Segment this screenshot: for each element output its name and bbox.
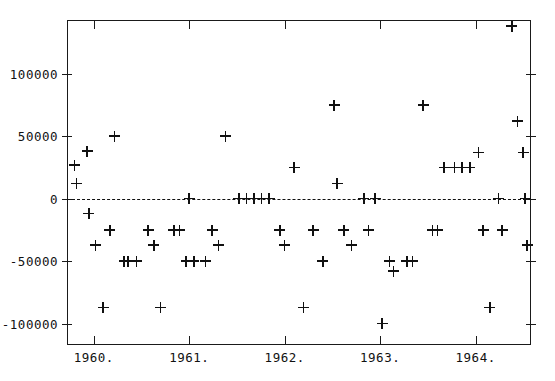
data-point	[358, 193, 369, 204]
data-point	[184, 193, 195, 204]
data-point	[332, 178, 343, 189]
data-point	[317, 256, 328, 267]
data-point	[148, 240, 159, 251]
y-tick-right	[526, 261, 536, 262]
data-point	[493, 193, 504, 204]
data-point	[264, 193, 275, 204]
data-point	[200, 256, 211, 267]
y-tick-left	[62, 136, 72, 137]
data-point	[90, 240, 101, 251]
x-tick-top	[189, 20, 190, 29]
data-point	[109, 131, 120, 142]
y-tick-left	[62, 324, 72, 325]
data-point	[407, 256, 418, 267]
data-point	[131, 256, 142, 267]
data-point	[346, 240, 357, 251]
data-point	[143, 225, 154, 236]
y-tick-label: -100000	[2, 316, 58, 331]
data-point	[506, 21, 517, 32]
data-point	[478, 225, 489, 236]
x-tick-top	[476, 20, 477, 29]
data-point	[298, 302, 309, 313]
x-tick-bottom	[189, 336, 190, 345]
data-point	[377, 318, 388, 329]
scatter-chart: 1960.1961.1962.1963.1964.100000500000-50…	[0, 0, 555, 381]
data-point	[363, 225, 374, 236]
data-point	[174, 225, 185, 236]
data-point	[484, 302, 495, 313]
x-tick-top	[380, 20, 381, 29]
data-point	[71, 178, 82, 189]
data-point	[473, 147, 484, 158]
x-tick-label: 1964.	[456, 350, 496, 365]
data-point	[104, 225, 115, 236]
x-tick-bottom	[285, 336, 286, 345]
zero-line	[67, 199, 531, 200]
data-point	[274, 225, 285, 236]
x-tick-label: 1961.	[169, 350, 209, 365]
data-point	[279, 240, 290, 251]
data-point	[289, 162, 300, 173]
data-point	[432, 225, 443, 236]
x-tick-top	[285, 20, 286, 29]
y-tick-left	[62, 261, 72, 262]
y-tick-right	[526, 74, 536, 75]
data-point	[520, 193, 531, 204]
data-point	[388, 266, 399, 277]
plot-frame	[67, 20, 531, 345]
x-tick-top	[94, 20, 95, 29]
x-tick-label: 1960.	[74, 350, 114, 365]
y-tick-label: 50000	[18, 129, 58, 144]
data-point	[512, 116, 523, 127]
x-tick-bottom	[476, 336, 477, 345]
y-tick-right	[526, 136, 536, 137]
data-point	[220, 131, 231, 142]
data-point	[329, 100, 340, 111]
data-point	[69, 160, 80, 171]
x-tick-bottom	[380, 336, 381, 345]
data-point	[308, 225, 319, 236]
data-point	[464, 162, 475, 173]
x-tick-label: 1962.	[265, 350, 305, 365]
data-point	[418, 100, 429, 111]
data-point	[82, 146, 93, 157]
y-tick-right	[526, 324, 536, 325]
y-tick-left	[62, 74, 72, 75]
data-point	[497, 225, 508, 236]
data-point	[98, 302, 109, 313]
data-point	[207, 225, 218, 236]
data-point	[338, 225, 349, 236]
data-point	[518, 147, 529, 158]
data-point	[83, 208, 94, 219]
data-point	[213, 240, 224, 251]
y-tick-label: 100000	[10, 66, 58, 81]
data-point	[155, 302, 166, 313]
data-point	[439, 162, 450, 173]
x-tick-bottom	[94, 336, 95, 345]
y-tick-label: -50000	[10, 254, 58, 269]
data-point	[370, 193, 381, 204]
data-point	[188, 256, 199, 267]
y-tick-label: 0	[50, 191, 58, 206]
x-tick-label: 1963.	[360, 350, 400, 365]
data-point	[522, 240, 533, 251]
